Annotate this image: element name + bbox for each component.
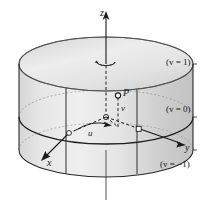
isoline-label-v-middle: (v = 0) [166, 105, 191, 114]
y-axis-surface-intercept [136, 126, 141, 131]
u-parameter-label: u [88, 129, 93, 138]
x-axis-label: x [47, 158, 51, 168]
isoline-label-v-bottom: (v = −1) [160, 160, 190, 169]
point-P-marker [115, 93, 120, 98]
z-axis-label: z [100, 8, 104, 18]
y-axis-label: y [185, 143, 189, 153]
cylinder-diagram: z x y P v u (v = 1) (v = 0) (v = −1) [0, 0, 212, 212]
point-P-label: P [123, 88, 129, 98]
isoline-label-v-top: (v = 1) [166, 58, 191, 67]
v-parameter-label: v [121, 104, 125, 113]
isoline-leaders [193, 64, 197, 150]
x-axis-surface-intercept [67, 131, 72, 136]
